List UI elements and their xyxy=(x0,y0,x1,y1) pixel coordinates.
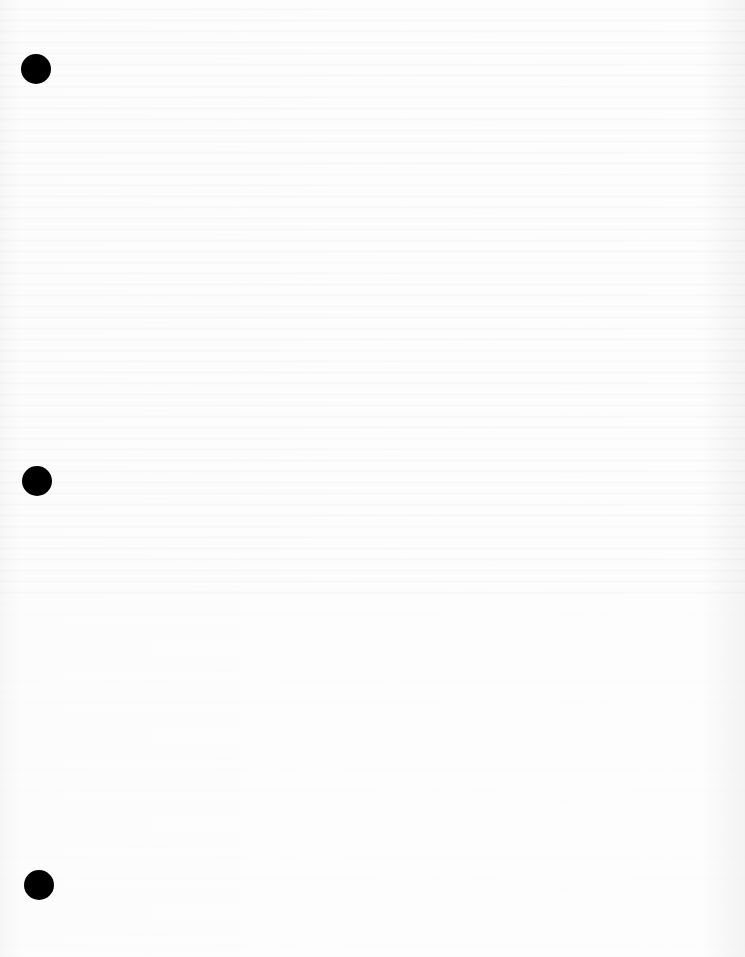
punch-hole-top xyxy=(21,54,51,84)
blank-document-page xyxy=(0,0,745,957)
punch-hole-bottom xyxy=(24,870,54,900)
punch-hole-middle xyxy=(22,466,52,496)
reverse-side-show-through xyxy=(0,0,745,600)
